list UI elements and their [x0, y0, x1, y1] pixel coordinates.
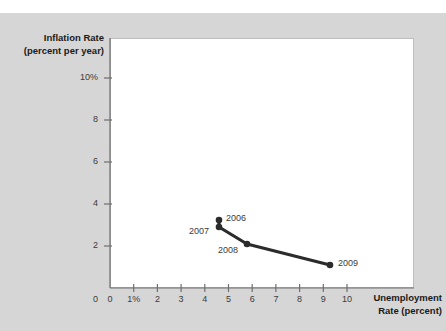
- y-tick-label-0: 0: [72, 294, 98, 304]
- x-tick-label-0: 0: [98, 294, 122, 304]
- x-tick-label-6: 6: [240, 294, 264, 304]
- y-axis-ticks: [104, 78, 112, 246]
- y-tick-label-10: 10%: [72, 72, 98, 82]
- series-line-phillips-curve: [219, 220, 330, 265]
- data-point-2006: [216, 217, 223, 224]
- data-label-2007: 2007: [189, 226, 209, 236]
- y-tick-label-8: 8: [72, 114, 98, 124]
- x-axis-title-line2: Rate (percent): [246, 304, 442, 317]
- y-tick-label-2: 2: [72, 240, 98, 250]
- y-axis-title: Inflation Rate (percent per year): [0, 31, 104, 57]
- x-tick-label-8: 8: [288, 294, 312, 304]
- x-tick-label-9: 9: [311, 294, 335, 304]
- y-tick-label-6: 6: [72, 156, 98, 166]
- data-point-2009: [327, 262, 334, 269]
- x-tick-label-1: 1%: [122, 294, 146, 304]
- x-tick-label-3: 3: [169, 294, 193, 304]
- x-tick-label-4: 4: [193, 294, 217, 304]
- chart-screenshot: Inflation Rate (percent per year) Unempl…: [0, 0, 446, 331]
- y-axis-title-line2: (percent per year): [0, 44, 104, 57]
- data-label-2009: 2009: [338, 258, 358, 268]
- y-axis-title-line1: Inflation Rate: [0, 31, 104, 44]
- y-tick-label-4: 4: [72, 198, 98, 208]
- data-point-2007: [216, 224, 223, 231]
- x-tick-label-10: 10: [335, 294, 359, 304]
- data-label-2008: 2008: [218, 245, 238, 255]
- x-tick-label-7: 7: [264, 294, 288, 304]
- x-tick-label-5: 5: [217, 294, 241, 304]
- x-tick-label-2: 2: [145, 294, 169, 304]
- data-label-2006: 2006: [226, 213, 246, 223]
- data-point-2008: [244, 241, 251, 248]
